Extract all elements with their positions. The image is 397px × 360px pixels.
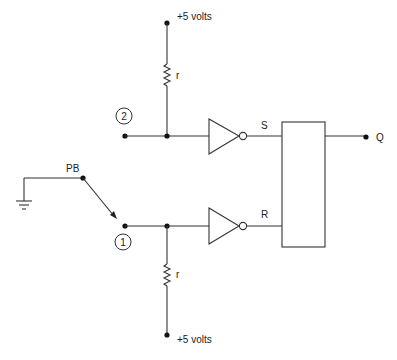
resistor-bottom-label: r <box>176 269 180 280</box>
resistor-top-icon <box>164 64 170 86</box>
node-2-label: 2 <box>121 111 127 122</box>
sr-latch-box <box>282 122 325 247</box>
pb-label: PB <box>66 163 80 174</box>
junction-top <box>164 133 169 138</box>
inverter-bottom-bubble-icon <box>239 222 246 229</box>
resistor-bottom-icon <box>164 264 170 286</box>
node-1-label: 1 <box>120 237 126 248</box>
ground-icon <box>16 201 32 209</box>
s-label: S <box>261 120 268 131</box>
q-terminal <box>363 134 368 139</box>
circuit-diagram: +5 volts r 2 S Q PB 1 R r +5 volts <box>0 0 397 360</box>
q-label: Q <box>376 132 384 143</box>
pb-switch-arm <box>83 178 114 216</box>
inverter-top-icon <box>209 119 239 154</box>
vcc-bottom-label: +5 volts <box>177 334 212 345</box>
r-label: R <box>261 209 268 220</box>
resistor-top-label: r <box>176 70 180 81</box>
inverter-top-bubble-icon <box>239 132 246 139</box>
vcc-bottom-terminal <box>164 332 169 337</box>
vcc-top-label: +5 volts <box>177 11 212 22</box>
inverter-bottom-icon <box>209 208 239 244</box>
